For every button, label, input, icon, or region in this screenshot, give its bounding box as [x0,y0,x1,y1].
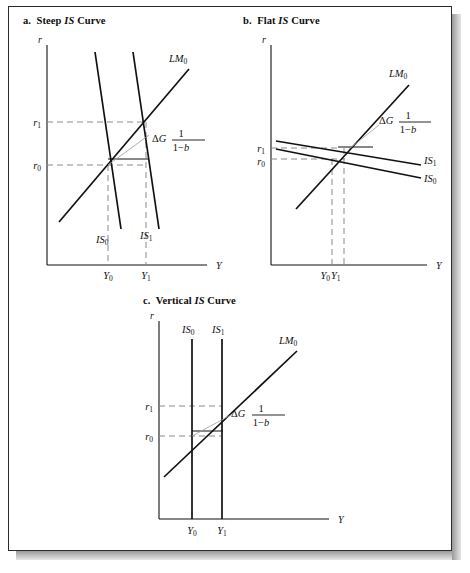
svg-text:1: 1 [178,128,183,139]
svg-text:ΔG: ΔG [152,133,167,144]
panel-b-y0-tick: Y0 [320,270,330,283]
svg-text:ΔG: ΔG [379,115,394,126]
panel-c-r1-tick: r1 [145,401,153,414]
panel-a-lm0-label: LM0 [168,53,188,66]
svg-text:1−b: 1−b [253,417,269,428]
svg-text:1: 1 [258,403,263,414]
panel-c-title: c. Vertical IS Curve [143,295,236,306]
panel-b-lm0-label: LM0 [388,68,408,81]
panel-c-y1-tick: Y1 [217,525,227,538]
panel-b-y-axis-label: r [262,34,266,45]
panel-b-x-axis-label: Y [436,260,443,271]
panel-a-y0-tick: Y0 [103,270,113,283]
panel-steep-is-curve: a. Steep IS Curve r Y LM0 [9,7,231,287]
panel-b-is1-label: IS1 [423,155,437,168]
panel-b-r1-tick: r1 [257,143,265,156]
panel-a-multiplier-annotation: ΔG 1 1−b [152,128,205,153]
panel-c-plot: r Y IS0 IS1 LM0 r [119,289,399,551]
panel-a-lm0-curve [59,69,189,222]
figure-frame: a. Steep IS Curve r Y LM0 [8,6,452,551]
panel-b-annotation-leader [349,125,379,149]
panel-c-x-axis-label: Y [338,514,345,525]
panel-a-r0-tick: r0 [33,160,41,173]
panel-vertical-is-curve: c. Vertical IS Curve r Y IS0 IS [119,289,399,551]
panel-c-r0-tick: r0 [145,431,153,444]
panel-a-is1-label: IS1 [139,230,153,243]
panel-b-is0-label: IS0 [423,173,437,186]
panel-c-lm0-label: LM0 [278,335,298,348]
panel-b-title: b. Flat IS Curve [243,15,320,26]
panel-a-x-axis-label: Y [216,260,223,271]
figure-drop-shadow-right [452,14,461,560]
panel-a-plot: r Y LM0 IS0 IS1 [9,7,231,287]
panel-b-multiplier-annotation: ΔG 1 1−b [379,110,431,135]
panel-a-is0-curve [95,52,121,229]
panel-c-y-axis-label: r [150,310,154,321]
panel-a-title: a. Steep IS Curve [23,15,106,26]
panel-c-y0-tick: Y0 [187,525,197,538]
panel-c-is1-label: IS1 [211,324,225,337]
panel-b-r0-tick: r0 [257,156,265,169]
panel-a-is0-label: IS0 [95,234,109,247]
panel-flat-is-curve: b. Flat IS Curve r Y LM0 [231,7,453,287]
svg-text:1−b: 1−b [173,142,189,153]
panel-a-y1-tick: Y1 [141,270,151,283]
figure-drop-shadow-bottom [16,551,460,560]
panel-a-r1-tick: r1 [33,117,41,130]
panel-c-is0-label: IS0 [181,324,195,337]
svg-text:ΔG: ΔG [231,408,246,419]
svg-text:1: 1 [405,110,410,121]
svg-text:1−b: 1−b [400,124,416,135]
panel-a-y-axis-label: r [38,34,42,45]
panel-b-plot: r Y LM0 IS1 IS0 [231,7,453,287]
panel-b-y1-tick: Y1 [331,270,341,283]
